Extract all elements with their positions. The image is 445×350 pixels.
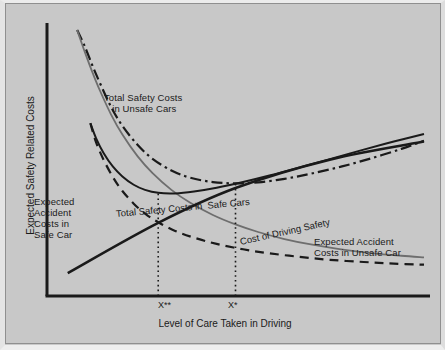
chart-canvas bbox=[0, 0, 445, 350]
x-tick-label-x-double-star: X** bbox=[158, 300, 171, 310]
annotation-expected-accident-costs-unsafe-car: Expected Accident Costs in Unsafe Car bbox=[314, 236, 401, 258]
figure-container: Expected Safety Related Costs Level of C… bbox=[0, 0, 445, 350]
annotation-total-safety-costs-unsafe-cars: Total Safety Costs in Unsafe Cars bbox=[104, 92, 182, 114]
annotation-expected-accident-costs-safe-car: Expected Accident Costs in Safe Car bbox=[34, 196, 74, 240]
series-expected-accident-costs-in-unsafe-car bbox=[77, 30, 424, 257]
x-tick-label-x-star: X* bbox=[228, 300, 238, 310]
x-axis-label: Level of Care Taken in Driving bbox=[60, 318, 390, 329]
